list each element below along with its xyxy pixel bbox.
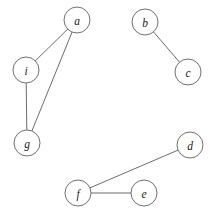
graph-node-label-b: b <box>142 17 148 29</box>
graph-node-a[interactable]: a <box>64 7 90 33</box>
graph-node-label-d: d <box>187 140 193 152</box>
graph-node-i[interactable]: i <box>13 57 39 83</box>
graph-node-label-i: i <box>24 65 27 77</box>
graph-svg: abcdefgi <box>0 0 215 217</box>
graph-node-g[interactable]: g <box>14 130 40 156</box>
graph-edge-a-g <box>32 32 72 131</box>
graph-edge-d-f <box>90 150 178 188</box>
edge-layer <box>26 29 179 193</box>
graph-node-label-e: e <box>141 188 146 200</box>
graph-edge-i-g <box>26 83 27 130</box>
graph-node-f[interactable]: f <box>65 180 91 206</box>
graph-node-c[interactable]: c <box>175 59 201 85</box>
graph-diagram-canvas: abcdefgi <box>0 0 215 217</box>
graph-node-b[interactable]: b <box>132 9 158 35</box>
graph-edge-b-c <box>153 32 179 62</box>
graph-node-label-c: c <box>185 67 190 79</box>
graph-edge-a-i <box>35 29 67 61</box>
graph-node-e[interactable]: e <box>131 180 157 206</box>
graph-node-label-a: a <box>74 15 80 27</box>
graph-node-label-g: g <box>24 138 30 151</box>
graph-node-d[interactable]: d <box>177 132 203 158</box>
